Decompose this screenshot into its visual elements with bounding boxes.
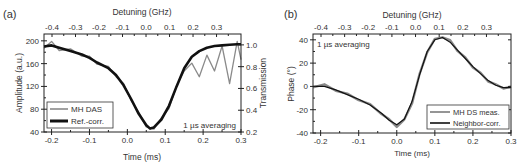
y-tick-label: 160 [26,60,40,69]
top-tick-label: 0.2 [187,23,199,32]
y-tick-label: 200 [26,37,40,46]
x-tick-label: 0.2 [467,137,479,146]
top-tick-label: -0.4 [314,23,328,32]
top-axis-label-b: Detuning (GHz) [382,10,441,20]
top-tick-label: 0.1 [434,23,446,32]
legend-label-mh-ds: MH DS meas. [453,108,500,117]
top-tick-label: 0.3 [481,23,493,32]
x-tick-label: 0.2 [198,136,210,145]
panel-label-a: (a) [3,8,16,20]
x-tick-label: -0.1 [352,137,366,146]
y-tick-label: -40 [296,129,308,138]
x-tick-label: 0.3 [505,137,517,146]
top-tick-label: -0.1 [116,23,130,32]
top-tick-label: -0.1 [385,23,399,32]
panel-b: (b) Detuning (GHz) Time (ms) Phase (°) -… [284,8,517,158]
annotation-averaging-b: 1 µs averaging [317,40,370,49]
y-tick-label: 80 [30,105,39,114]
x-tick-label: 0.3 [235,136,247,145]
legend-b: MH DS meas. Neighbor-corr. [427,105,509,129]
y-axis-label-b: Phase (°) [286,66,296,102]
y2-tick-label: 0.8 [246,63,258,72]
x-tick-label: -0.1 [83,136,97,145]
panel-a: (a) Detuning (GHz) Time (ms) Amplitude (… [3,7,268,162]
top-tick-label: 0.0 [410,23,422,32]
y-tick-label: 0 [304,82,309,91]
legend-a: MH DAS Ref.-corr. [47,102,113,128]
figure: (a) Detuning (GHz) Time (ms) Amplitude (… [0,0,532,166]
x-tick-label: 0.1 [429,137,441,146]
x-tick-label: -0.2 [314,137,328,146]
y-tick-label: 40 [299,36,308,45]
top-tick-label: -0.3 [69,23,83,32]
y2-tick-label: 0.2 [246,128,258,137]
x-axis-label-a: Time (ms) [123,152,161,162]
top-tick-label: -0.2 [92,23,106,32]
y-tick-label: 40 [30,128,39,137]
y2-tick-label: 0.4 [246,106,258,115]
top-axis-label-a: Detuning (GHz) [112,7,171,17]
top-tick-label: 0.3 [211,23,223,32]
annotation-averaging-a: 1 µs averaging [183,121,236,130]
top-tick-label: -0.3 [338,23,352,32]
y2-tick-label: 1.0 [246,41,258,50]
y-tick-label: 120 [26,82,40,91]
x-axis-label-b: Time (ms) [394,149,430,158]
top-tick-label: 0.0 [140,23,152,32]
x-tick-label: -0.2 [45,136,59,145]
top-tick-label: 0.2 [457,23,469,32]
x-tick-label: 0.0 [391,137,403,146]
top-tick-label: -0.2 [361,23,375,32]
top-tick-label: 0.1 [164,23,176,32]
x-tick-label: 0.1 [160,136,172,145]
panel-label-b: (b) [284,8,297,20]
y2-axis-label-a: Transmission [258,58,268,108]
legend-label-mh-das: MH DAS [71,105,102,114]
y-tick-label: -20 [296,106,308,115]
legend-label-ref-corr: Ref.-corr. [71,117,104,126]
legend-label-neighbor-corr: Neighbor-corr. [453,119,501,128]
y2-tick-label: 0.6 [246,84,258,93]
top-tick-label: -0.4 [45,23,59,32]
y-tick-label: 20 [299,59,308,68]
x-tick-label: 0.0 [122,136,134,145]
y-axis-label-a: Amplitude (a.u.) [14,53,24,113]
